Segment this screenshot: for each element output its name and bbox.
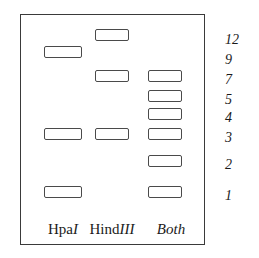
size-marker-2: 2 <box>225 158 232 172</box>
size-marker-3: 3 <box>225 131 232 145</box>
lane-label-both: Both <box>140 219 202 239</box>
dna-band-both-2 <box>148 155 182 167</box>
lane-label-hindiii: HindIII <box>74 219 150 239</box>
lane-label-enzyme-numeral: III <box>120 221 135 237</box>
dna-band-both-3 <box>148 128 182 140</box>
size-marker-ladder: 129754321 <box>205 0 259 258</box>
dna-band-both-7 <box>148 70 182 82</box>
lane-label-enzyme-name: Hind <box>90 221 120 237</box>
dna-band-both-4 <box>148 108 182 120</box>
size-marker-1: 1 <box>225 189 232 203</box>
lane-labels-row: HpaIHindIIIBoth <box>20 219 205 243</box>
size-marker-7: 7 <box>225 73 232 87</box>
gel-electrophoresis-figure: HpaIHindIIIBoth 129754321 <box>0 0 259 258</box>
dna-band-both-1 <box>148 186 182 198</box>
size-marker-4: 4 <box>225 111 232 125</box>
size-marker-5: 5 <box>225 93 232 107</box>
dna-band-both-5 <box>148 90 182 102</box>
size-marker-12: 12 <box>225 33 239 47</box>
lane-label-enzyme-name: Both <box>157 221 185 237</box>
lane-label-enzyme-name: Hpa <box>48 221 73 237</box>
size-marker-9: 9 <box>225 53 232 67</box>
